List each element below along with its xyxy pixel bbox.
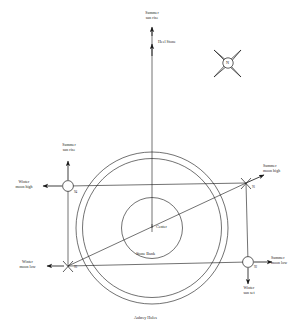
label-summer-moon-low: Summer moon low bbox=[271, 256, 307, 266]
compass-north-label: N bbox=[226, 60, 229, 65]
rect-top-side bbox=[68, 183, 246, 186]
station-number-92: 92 bbox=[254, 265, 257, 269]
label-summer-sun-rise-station-94: Summer sun rise bbox=[50, 143, 88, 153]
station-number-94: 94 bbox=[74, 190, 77, 194]
station-stone-94 bbox=[63, 181, 74, 192]
station-number-93: 93 bbox=[74, 265, 77, 269]
station-stone-92 bbox=[243, 257, 254, 268]
label-aubrey-holes: Aubrey Holes bbox=[134, 315, 157, 320]
label-winter-moon-high: Winter moon high bbox=[6, 180, 42, 190]
label-heel-stone: Heel Stone bbox=[158, 40, 198, 45]
label-winter-sun-set: Winter sun set bbox=[232, 286, 266, 296]
figure-canvas: Summer sun rise Heel Stone Summer sun ri… bbox=[0, 0, 308, 334]
label-center: Center bbox=[156, 224, 167, 229]
station-number-91: 91 bbox=[252, 185, 255, 189]
arrow-summer-moon-high bbox=[246, 175, 264, 183]
label-winter-moon-low: Winter moon low bbox=[9, 260, 46, 270]
alignment-diagram-svg bbox=[0, 0, 308, 334]
label-stone-bank: Stone Bank bbox=[136, 251, 155, 256]
rect-right-side bbox=[246, 183, 248, 262]
label-summer-moon-high: Summer moon high bbox=[263, 164, 303, 174]
label-summer-sun-rise-top: Summer sun rise bbox=[133, 11, 171, 21]
rect-bottom-side bbox=[68, 262, 248, 266]
